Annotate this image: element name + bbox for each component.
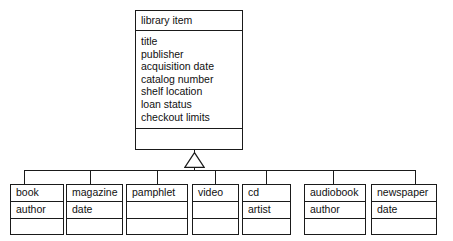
- class-name-label: cd: [248, 186, 285, 199]
- attribute-loan-status: loan status: [141, 98, 237, 111]
- uml-class-diagram: library item title publisher acquisition…: [0, 0, 453, 241]
- class-name-compartment: audiobook: [305, 185, 365, 202]
- drop-line-pamphlet: [157, 170, 158, 185]
- class-box-video[interactable]: video: [192, 184, 239, 235]
- class-name-compartment: pamphlet: [127, 185, 187, 202]
- class-name-compartment: book: [11, 185, 63, 202]
- drop-line-magazine: [90, 170, 91, 185]
- class-name-label: library item: [141, 14, 237, 27]
- class-name-compartment: newspaper: [372, 185, 436, 202]
- class-name-label: pamphlet: [132, 186, 182, 199]
- class-attributes-compartment: author: [11, 202, 63, 219]
- attribute-catalog-number: catalog number: [141, 73, 237, 86]
- generalization-triangle-icon: [184, 152, 205, 168]
- class-attributes-compartment: artist: [243, 202, 290, 219]
- drop-line-newspaper: [415, 170, 416, 185]
- attribute-author: author: [16, 203, 58, 216]
- class-attributes-compartment: author: [305, 202, 365, 219]
- class-name-compartment: cd: [243, 185, 290, 202]
- class-attributes-compartment: date: [67, 202, 122, 219]
- drop-line-book: [24, 170, 25, 185]
- class-attributes-compartment: [193, 202, 238, 219]
- class-name-label: audiobook: [310, 186, 360, 199]
- attribute-date: date: [377, 203, 431, 216]
- attribute-title: title: [141, 35, 237, 48]
- attribute-author: author: [310, 203, 360, 216]
- drop-line-cd: [266, 170, 267, 185]
- class-box-book[interactable]: book author: [10, 184, 64, 235]
- class-name-label: book: [16, 186, 58, 199]
- attribute-publisher: publisher: [141, 48, 237, 61]
- class-name-compartment: video: [193, 185, 238, 202]
- class-operations-compartment: [136, 129, 242, 149]
- class-box-pamphlet[interactable]: pamphlet: [126, 184, 188, 235]
- class-attributes-compartment: date: [372, 202, 436, 219]
- class-box-newspaper[interactable]: newspaper date: [371, 184, 437, 235]
- class-box-cd[interactable]: cd artist: [242, 184, 291, 235]
- attribute-shelf-location: shelf location: [141, 85, 237, 98]
- class-name-label: newspaper: [377, 186, 431, 199]
- class-operations-compartment: [372, 219, 436, 234]
- drop-line-audiobook: [333, 170, 334, 185]
- class-box-audiobook[interactable]: audiobook author: [304, 184, 366, 235]
- class-box-library-item[interactable]: library item title publisher acquisition…: [135, 10, 243, 150]
- class-name-compartment: magazine: [67, 185, 122, 202]
- class-name-compartment: library item: [136, 11, 242, 31]
- class-operations-compartment: [127, 219, 187, 234]
- attribute-checkout-limits: checkout limits: [141, 111, 237, 124]
- attribute-artist: artist: [248, 203, 285, 216]
- class-operations-compartment: [243, 219, 290, 234]
- class-attributes-compartment: title publisher acquisition date catalog…: [136, 31, 242, 129]
- class-operations-compartment: [305, 219, 365, 234]
- attribute-date: date: [72, 203, 117, 216]
- attribute-acquisition-date: acquisition date: [141, 60, 237, 73]
- class-attributes-compartment: [127, 202, 187, 219]
- class-name-label: video: [198, 186, 233, 199]
- drop-line-video: [215, 170, 216, 185]
- class-name-label: magazine: [72, 186, 117, 199]
- class-operations-compartment: [67, 219, 122, 234]
- generalization-bus-line: [24, 170, 416, 171]
- class-box-magazine[interactable]: magazine date: [66, 184, 123, 235]
- class-operations-compartment: [11, 219, 63, 234]
- class-operations-compartment: [193, 219, 238, 234]
